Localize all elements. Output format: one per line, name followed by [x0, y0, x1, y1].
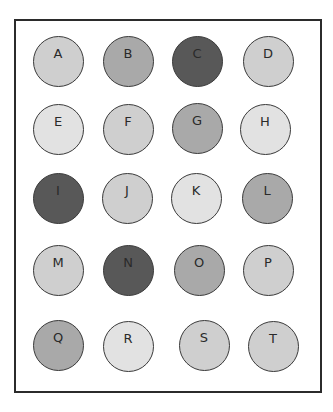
circle-m: M: [33, 245, 84, 296]
circle-label: T: [269, 331, 277, 346]
circle-l: L: [242, 173, 293, 224]
circle-label: S: [200, 330, 208, 345]
circle-p: P: [243, 245, 294, 296]
circle-b: B: [103, 36, 154, 87]
circle-label: N: [123, 255, 133, 270]
circle-label: K: [192, 183, 201, 198]
circle-o: O: [174, 245, 225, 296]
circle-n: N: [103, 245, 154, 296]
circle-label: D: [263, 46, 273, 61]
circle-a: A: [33, 36, 84, 87]
circle-j: J: [102, 173, 153, 224]
circle-e: E: [33, 104, 84, 155]
circle-c: C: [172, 36, 223, 87]
circle-label: R: [123, 331, 132, 346]
circle-label: C: [192, 46, 201, 61]
circle-label: G: [192, 113, 202, 128]
circle-label: Q: [53, 330, 63, 345]
circle-q: Q: [33, 320, 84, 371]
circle-f: F: [103, 104, 154, 155]
circle-label: I: [56, 183, 60, 198]
circle-label: F: [124, 114, 131, 129]
circle-k: K: [171, 173, 222, 224]
circle-label: O: [194, 255, 204, 270]
circle-label: B: [124, 46, 133, 61]
circle-label: A: [54, 46, 63, 61]
circle-label: P: [264, 255, 272, 270]
circle-label: E: [54, 114, 62, 129]
circle-h: H: [240, 104, 291, 155]
circle-s: S: [179, 320, 230, 371]
circle-label: H: [260, 114, 270, 129]
circle-label: J: [125, 183, 129, 198]
circle-i: I: [33, 173, 84, 224]
circle-g: G: [172, 103, 223, 154]
circle-t: T: [248, 321, 299, 372]
circle-d: D: [243, 36, 294, 87]
circle-label: L: [263, 183, 270, 198]
circle-r: R: [103, 321, 154, 372]
circle-label: M: [52, 255, 63, 270]
